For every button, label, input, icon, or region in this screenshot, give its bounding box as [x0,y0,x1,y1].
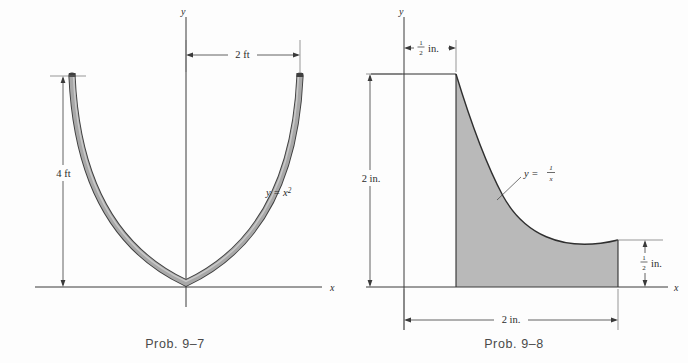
caption-prob-9-7: Prob. 9–7 [145,337,205,351]
height-dim-label: 2 in. [362,173,381,184]
right-height-fraction-numerator: 1 [642,254,646,262]
width-dim-label: 2 ft [235,49,249,60]
offset-dim-fraction-denominator: 2 [419,49,423,57]
height-dim-label: 4 ft [56,168,70,179]
rod-end-cap-right [296,73,303,77]
offset-dim-fraction-numerator: 1 [419,39,423,47]
curve-equation-lhs: y = [523,168,538,179]
curve-equation-base: y = x [265,187,288,198]
right-height-fraction-denominator: 2 [642,264,646,272]
caption-prob-9-8: Prob. 9–8 [484,337,544,351]
curve-equation-exponent: 2 [288,187,292,195]
rod-end-cap-left [69,73,76,77]
figure-pair-container: x y 2 ft 4 ft y = x2 Prob. 9–7 [0,0,688,363]
offset-dim-unit: in. [428,43,439,54]
right-height-dim-unit: in. [651,258,662,269]
x-axis-label: x [673,282,679,293]
y-axis-label: y [398,6,404,17]
problems-figure-svg: x y 2 ft 4 ft y = x2 Prob. 9–7 [0,0,688,363]
width-dim-label: 2 in. [502,314,521,325]
y-axis-label: y [180,6,186,17]
curve-equation-numerator: 1 [549,164,553,172]
x-axis-label: x [329,282,335,293]
page-background [0,0,688,363]
